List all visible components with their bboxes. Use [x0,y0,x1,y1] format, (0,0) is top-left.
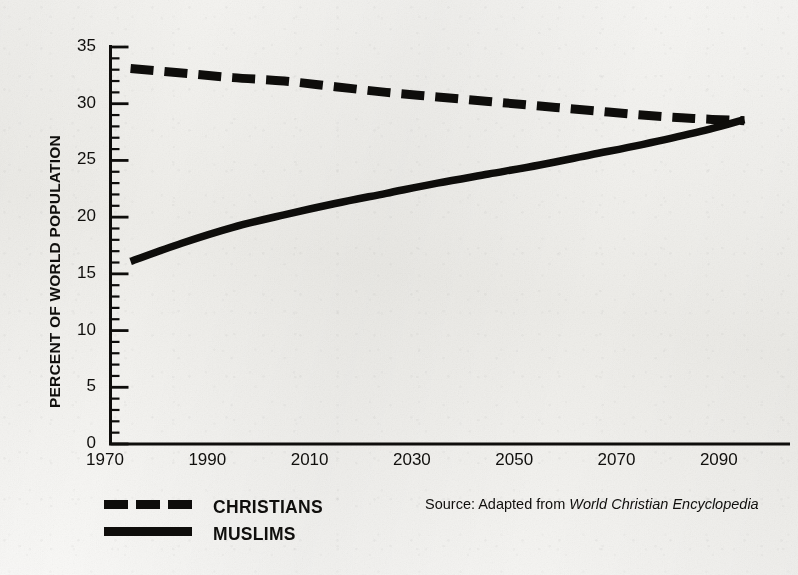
y-axis-ticks [111,47,129,444]
legend-label-christians: CHRISTIANS [213,497,323,518]
data-series-layer [131,69,745,262]
axis-lines [109,45,790,445]
x-axis-tick-label: 2070 [582,450,652,470]
y-axis-tick-label: 10 [62,320,96,340]
x-axis-tick-label: 1970 [70,450,140,470]
x-axis-tick-label: 2090 [684,450,754,470]
x-axis-tick-label: 1990 [172,450,242,470]
legend-label-muslims: MUSLIMS [213,524,296,545]
legend-marks [104,500,192,536]
y-axis-tick-label: 15 [62,263,96,283]
source-publication: World Christian Encyclopedia [569,496,758,512]
y-axis-tick-label: 25 [62,149,96,169]
x-axis-tick-label: 2010 [275,450,345,470]
chart-figure: PERCENT OF WORLD POPULATION 353025201510… [0,0,798,575]
x-axis-tick-label: 2030 [377,450,447,470]
x-axis-tick-label: 2050 [479,450,549,470]
series-line-christians [131,69,745,121]
series-line-muslims [131,120,745,262]
y-axis-tick-label: 5 [62,376,96,396]
legend-swatch-christians-dash3 [168,500,192,509]
y-axis-tick-label: 30 [62,93,96,113]
source-note: Source: Adapted from World Christian Enc… [425,496,759,512]
source-prefix: Source: Adapted from [425,496,569,512]
y-axis-tick-label: 20 [62,206,96,226]
legend-swatch-christians-dash2 [136,500,160,509]
plot-canvas [0,0,798,575]
legend-swatch-christians [104,500,128,509]
legend-swatch-muslims [104,527,192,536]
y-axis-tick-label: 35 [62,36,96,56]
